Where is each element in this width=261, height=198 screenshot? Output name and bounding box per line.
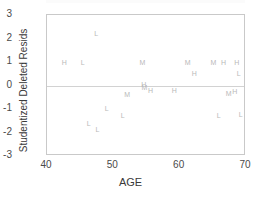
- data-point-marker-m: M: [226, 89, 232, 96]
- data-point-marker-h: H: [192, 69, 197, 76]
- y-tick-label: -1: [3, 103, 12, 113]
- scatter-plot-chart: Studentized Deleted Resids AGE 3 2 1 0 -…: [0, 0, 261, 198]
- x-tick-label: 40: [40, 160, 51, 170]
- y-tick-label: 2: [6, 33, 12, 43]
- y-tick-label: 0: [6, 80, 12, 90]
- data-point-marker-l: L: [95, 125, 99, 132]
- y-tick-label: -3: [3, 150, 12, 160]
- data-point-marker-m: M: [185, 59, 191, 66]
- x-tick-label: 50: [107, 160, 118, 170]
- data-point-marker-l: L: [87, 120, 91, 127]
- plot-frame: HHHHHHHHLLLLLLLLLMMMMMM: [46, 14, 245, 155]
- data-point-marker-h: H: [234, 59, 239, 66]
- data-point-marker-l: L: [94, 29, 98, 36]
- data-point-marker-l: L: [237, 69, 241, 76]
- y-tick-label: -2: [3, 127, 12, 137]
- y-tick-label: 3: [6, 9, 12, 19]
- data-point-marker-h: H: [148, 87, 153, 94]
- plot-area: HHHHHHHHLLLLLLLLLMMMMMM: [47, 15, 244, 154]
- y-tick-label: 1: [6, 56, 12, 66]
- x-tick-label: 70: [239, 160, 250, 170]
- data-point-marker-h: H: [232, 88, 237, 95]
- data-point-marker-m: M: [211, 59, 217, 66]
- data-point-marker-l: L: [105, 104, 109, 111]
- data-point-marker-m: M: [142, 83, 148, 90]
- x-axis-label: AGE: [0, 176, 261, 188]
- data-point-marker-h: H: [172, 87, 177, 94]
- data-point-marker-m: M: [124, 90, 130, 97]
- data-point-marker-h: H: [62, 59, 67, 66]
- plot-top-artifact: [46, 0, 245, 3]
- data-point-marker-l: L: [239, 110, 243, 117]
- data-point-marker-h: H: [221, 59, 226, 66]
- x-tick-label: 60: [173, 160, 184, 170]
- data-point-marker-l: L: [121, 111, 125, 118]
- data-point-marker-l: L: [217, 111, 221, 118]
- data-point-marker-l: L: [81, 59, 85, 66]
- y-axis-label: Studentized Deleted Resids: [18, 21, 29, 161]
- data-point-marker-m: M: [140, 59, 146, 66]
